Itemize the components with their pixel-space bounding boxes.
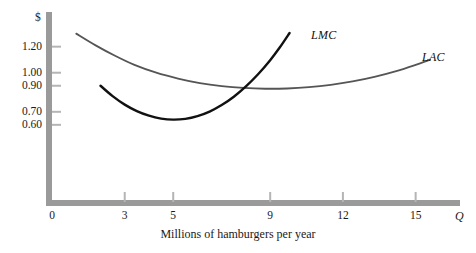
x-tick-label: 15: [396, 210, 436, 222]
lmc-curve: [100, 33, 289, 120]
y-axis-ticks: [52, 46, 61, 126]
x-tick-mark: [342, 192, 344, 202]
x-axis-quantity-symbol: Q: [455, 210, 464, 222]
y-tick-label: 0.70: [0, 106, 42, 118]
lmc-curve-label: LMC: [311, 29, 337, 41]
y-tick-mark: [52, 46, 61, 48]
y-axis-unit-label: $: [35, 12, 41, 24]
x-axis-caption: Millions of hamburgers per year: [0, 228, 476, 240]
x-tick-mark: [172, 192, 174, 202]
y-tick-mark: [52, 111, 61, 113]
y-tick-label: 1.20: [0, 41, 42, 53]
y-tick-label: 0.90: [0, 80, 42, 92]
y-tick-label: 1.00: [0, 67, 42, 79]
y-tick-mark: [52, 85, 61, 87]
y-tick-mark: [52, 124, 61, 126]
y-axis-line: [46, 12, 52, 206]
y-tick-mark: [52, 72, 61, 74]
y-tick-label: 0.60: [0, 119, 42, 131]
x-tick-label: 0: [32, 210, 72, 222]
x-tick-label: 5: [153, 210, 193, 222]
x-tick-label: 3: [105, 210, 145, 222]
x-tick-label: 12: [323, 210, 363, 222]
x-tick-label: 9: [250, 210, 290, 222]
x-tick-mark: [124, 192, 126, 202]
x-axis-line: [46, 200, 460, 206]
lac-curve-label: LAC: [422, 51, 445, 63]
x-tick-mark: [415, 192, 417, 202]
chart-figure: $ 1.201.000.900.700.60 03591215 LMC LAC …: [0, 0, 476, 253]
x-tick-mark: [269, 192, 271, 202]
